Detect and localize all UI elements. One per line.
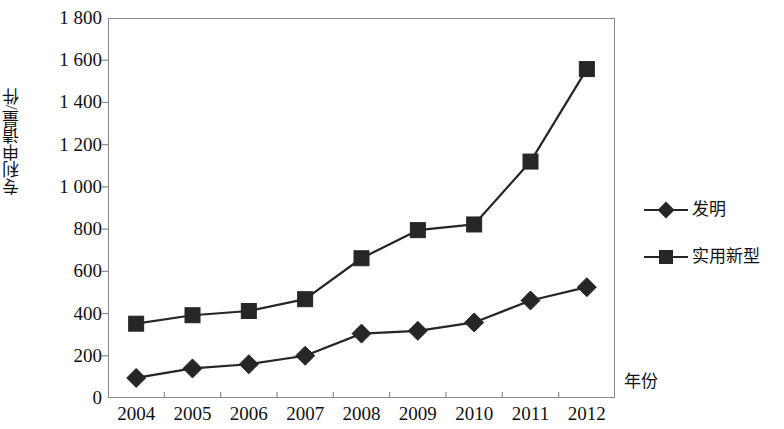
square-marker [467,217,482,232]
series-line [136,69,587,324]
legend-item-1[interactable]: 实用新型 [644,233,784,280]
square-marker [354,251,369,266]
square-marker [298,292,313,307]
diamond-marker [465,313,484,332]
x-tick-label: 2010 [446,403,502,425]
x-tick-label: 2009 [390,403,446,425]
diamond-marker [183,359,202,378]
square-marker [185,308,200,323]
x-tick-label: 2006 [221,403,277,425]
x-tick-label: 2005 [165,403,221,425]
square-marker [241,304,256,319]
diamond-marker [408,321,427,340]
legend-key-diamond-icon [644,199,688,221]
x-axis-ticks [164,392,558,398]
x-tick-label: 2008 [334,403,390,425]
series-发明 [127,278,597,388]
diamond-marker [521,291,540,310]
legend-label-1: 实用新型 [692,247,760,267]
x-axis-title: 年份 [624,372,658,392]
y-axis-ticks [102,60,108,356]
square-marker [523,154,538,169]
series-layer [127,62,597,388]
diamond-marker [352,324,371,343]
chart-container: 专利申请量/件 02004006008001 0001 2001 4001 60… [0,0,784,429]
x-tick-label: 2004 [108,403,164,425]
square-marker [129,316,144,331]
series-实用新型 [129,62,595,332]
square-marker [410,223,425,238]
chart-legend: 发明 实用新型 [644,186,784,280]
diamond-marker [239,355,258,374]
square-marker [579,62,594,77]
x-tick-label: 2012 [559,403,615,425]
x-tick-label: 2011 [503,403,559,425]
diamond-marker [296,346,315,365]
diamond-marker [577,278,596,297]
legend-key-square-icon [644,246,688,268]
diamond-marker [127,368,146,387]
x-tick-label: 2007 [277,403,333,425]
legend-item-0[interactable]: 发明 [644,186,784,233]
legend-label-0: 发明 [692,200,726,220]
